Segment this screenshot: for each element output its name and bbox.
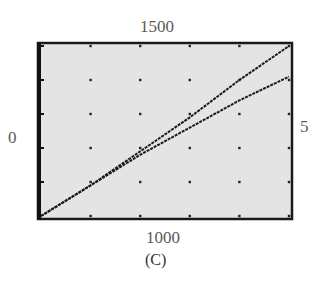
grid-dot bbox=[139, 215, 141, 217]
grid-dot bbox=[89, 113, 91, 115]
grid-dot bbox=[238, 147, 240, 149]
grid-dot bbox=[238, 181, 240, 183]
grid-dot bbox=[139, 113, 141, 115]
grid-dot bbox=[139, 79, 141, 81]
grid-dot bbox=[139, 147, 141, 149]
grid-dot bbox=[189, 215, 191, 217]
grid-dot bbox=[89, 79, 91, 81]
grid-dot bbox=[288, 181, 290, 183]
grid-dot bbox=[139, 45, 141, 47]
grid-dot bbox=[89, 181, 91, 183]
grid-dot bbox=[238, 45, 240, 47]
grid-dot bbox=[288, 113, 290, 115]
xmax-label: 5 bbox=[300, 118, 309, 135]
grid-dot bbox=[238, 215, 240, 217]
grid-dot bbox=[89, 147, 91, 149]
figure-caption: (C) bbox=[145, 252, 166, 268]
grid-dot bbox=[189, 79, 191, 81]
ymax-label: 1500 bbox=[140, 18, 174, 35]
grid-dot bbox=[189, 113, 191, 115]
grid-dot bbox=[189, 147, 191, 149]
grid-dot bbox=[288, 147, 290, 149]
grid-dot bbox=[89, 45, 91, 47]
grid-dot bbox=[288, 79, 290, 81]
grid-dot bbox=[189, 181, 191, 183]
grid-dot bbox=[288, 215, 290, 217]
ymin-label: 1000 bbox=[146, 229, 180, 246]
grid-dot bbox=[139, 181, 141, 183]
grid-dot bbox=[238, 113, 240, 115]
grid-dot bbox=[189, 45, 191, 47]
xmin-label: 0 bbox=[8, 129, 17, 146]
grid-dot bbox=[89, 215, 91, 217]
